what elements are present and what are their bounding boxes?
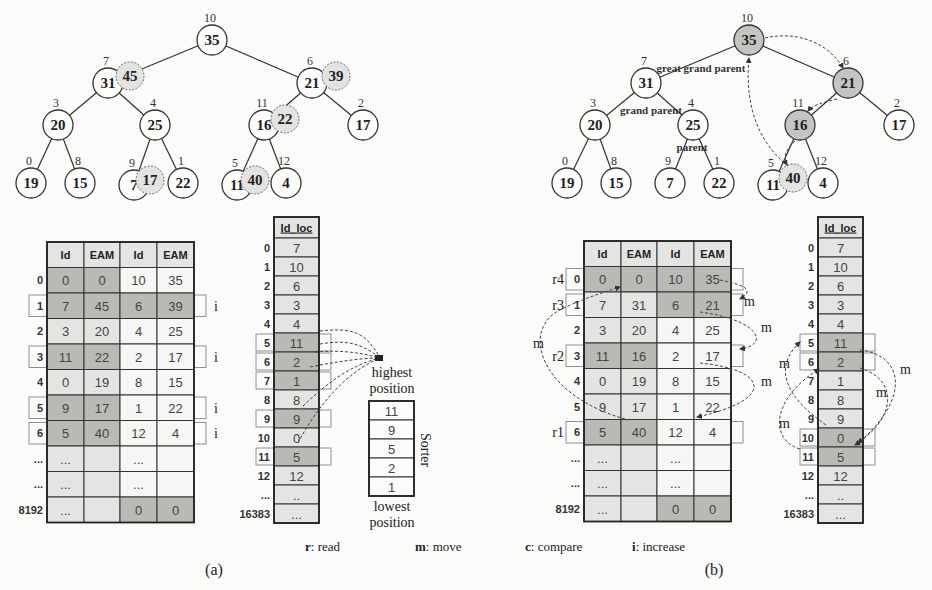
cell-value: 3	[62, 324, 69, 339]
node-value: 16	[793, 117, 809, 133]
table-row: 33	[264, 295, 319, 314]
table-row: 70	[808, 238, 863, 257]
cell-value: 0	[599, 272, 606, 287]
tree-node: 317	[631, 54, 661, 98]
cell-value: 3	[293, 298, 300, 313]
id-loc-table: Id_loc70101623344115261788990105111212..…	[783, 217, 875, 523]
cell-value: 40	[95, 426, 109, 441]
legend-item: i: increase	[632, 539, 685, 554]
cell-value: 2	[837, 355, 844, 370]
node-index: 8	[75, 154, 81, 168]
table-row: ...008192	[19, 497, 194, 523]
cell-value: 17	[705, 349, 719, 364]
cell-value: 31	[632, 298, 646, 313]
row-index: 2	[808, 280, 814, 292]
node-index: 3	[590, 96, 596, 110]
node-index: 2	[894, 96, 900, 110]
cell-value: 17	[632, 400, 646, 415]
node-index: 1	[178, 154, 184, 168]
node-index: 3	[53, 96, 59, 110]
cell-value: 45	[95, 299, 109, 314]
tree-node: 158	[601, 154, 631, 198]
node-value: 25	[686, 117, 701, 133]
cell-value: 2	[293, 355, 300, 370]
incremented-node: 17	[136, 166, 164, 194]
table-row: .........	[34, 446, 194, 472]
cell-value: 4	[172, 426, 179, 441]
table-row: 0010350	[37, 268, 194, 294]
sorter-value: 9	[388, 423, 395, 438]
table-row: 88	[264, 390, 319, 409]
cell-value: ...	[597, 502, 608, 517]
cell-value: 11	[834, 336, 848, 351]
cell-value: 7	[293, 241, 300, 256]
table-row: ...008192	[556, 496, 731, 522]
great-grand-parent-label: great grand parent	[657, 62, 746, 74]
table-row: 11222173i	[29, 344, 218, 370]
cell-value: 8	[135, 375, 142, 390]
node-index: 10	[741, 11, 753, 25]
cell-value: 4	[293, 317, 300, 332]
cell-value: 19	[632, 374, 646, 389]
row-index: 5	[37, 402, 43, 414]
table-row: 0198154	[574, 369, 731, 395]
legend-item: r: read	[305, 539, 341, 554]
cell-value: ..	[293, 488, 300, 503]
cell-value: 22	[95, 350, 109, 365]
node-value: 4	[819, 175, 827, 191]
read-marker: r2	[552, 349, 564, 364]
table-row: 0198154	[37, 370, 194, 396]
tree-node: 172	[348, 96, 378, 140]
row-index: 5	[574, 401, 580, 413]
table-row: 99	[808, 409, 863, 428]
legend: r: readm: movec: comparei: increase	[305, 539, 685, 554]
table-row: 17	[808, 371, 863, 390]
cell-value: 0	[599, 374, 606, 389]
node-index: 6	[307, 54, 313, 68]
cell-value: 15	[705, 374, 719, 389]
cell-value: 7	[599, 298, 606, 313]
cell-value: 25	[705, 323, 719, 338]
node-index: 7	[641, 54, 647, 68]
sorter-input-port	[375, 355, 383, 361]
column-header: Id_loc	[825, 222, 857, 234]
column-header: Id	[134, 249, 144, 261]
legend-text: : increase	[636, 539, 686, 554]
column-header: EAM	[90, 249, 114, 261]
tree-node: 254	[140, 96, 170, 140]
cell-value: 0	[837, 431, 844, 446]
row-index: 11	[258, 451, 270, 463]
table-row: 88	[808, 390, 863, 409]
node-index: 12	[815, 154, 827, 168]
cell-value: 22	[168, 401, 182, 416]
node-index: 5	[232, 156, 238, 170]
row-index: 2	[37, 325, 43, 337]
row-index: 1	[808, 261, 814, 273]
table-row: 62	[264, 276, 319, 295]
row-index: 3	[574, 350, 580, 362]
node-value: 25	[148, 117, 163, 133]
cell-value: 2	[672, 349, 679, 364]
table-cell	[157, 446, 194, 472]
row-index: 0	[37, 274, 43, 286]
table-row: 44	[264, 314, 319, 333]
node-value: 17	[892, 117, 908, 133]
cell-value: 20	[632, 323, 646, 338]
cell-value: 1	[837, 374, 844, 389]
move-label: m	[779, 356, 790, 371]
cell-value: 1	[672, 400, 679, 415]
incremented-node: 39	[322, 62, 350, 90]
cell-value: 0	[709, 502, 716, 517]
increase-marker: i	[214, 299, 218, 314]
table-row: 1212	[258, 466, 319, 485]
cell-value: 12	[289, 469, 303, 484]
node-value: 35	[205, 32, 220, 48]
cell-value: 6	[672, 298, 679, 313]
row-index: 5	[808, 337, 814, 349]
incremented-node: 40	[779, 164, 807, 192]
cell-value: 0	[293, 431, 300, 446]
table-row: 0010350r4	[552, 267, 743, 293]
sorter: highest position 119521 lowest position …	[369, 365, 433, 530]
node-value: 16	[257, 117, 273, 133]
cell-value: 19	[95, 375, 109, 390]
